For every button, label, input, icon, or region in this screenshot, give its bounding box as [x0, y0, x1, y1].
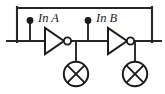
circuit-diagram: In A In B	[0, 0, 165, 94]
inverter-b[interactable]	[108, 28, 134, 54]
inverter-a-bubble-icon	[64, 37, 71, 44]
junction-dot-icon-input-b[interactable]	[85, 17, 92, 24]
lamp-b[interactable]	[123, 41, 147, 86]
inverter-triangle-with-bubble-icon-a[interactable]	[45, 28, 64, 54]
inverter-a[interactable]	[45, 28, 71, 54]
lamp-a[interactable]	[64, 41, 88, 86]
junction-dot-icon-input-a[interactable]	[27, 17, 34, 24]
input-b-label: In B	[95, 11, 118, 25]
input-a-label: In A	[37, 11, 59, 25]
inverter-triangle-with-bubble-icon-b[interactable]	[108, 28, 127, 54]
circuit-schematic-canvas: In A In B	[0, 0, 165, 94]
inverter-b-bubble-icon	[127, 37, 134, 44]
